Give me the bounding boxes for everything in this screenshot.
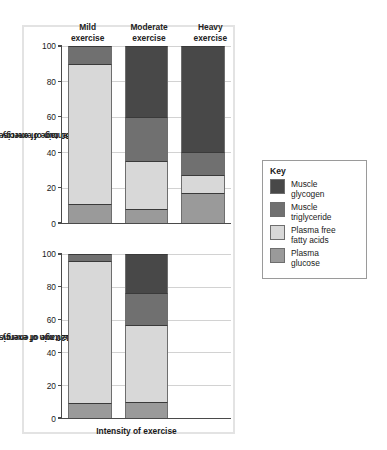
- chart-top-ytick-80: 80: [47, 77, 56, 87]
- legend-label-line2: fatty acids: [291, 235, 336, 245]
- legend-swatch-muscle_glycogen: [270, 179, 285, 194]
- chart-top-y-axis-title: Percentage of energy expenditure 0–30 mi…: [22, 46, 36, 224]
- chart-top-ytick-20: 20: [47, 183, 56, 193]
- legend-swatch-plasma_ffa: [270, 225, 285, 240]
- bar-segment[interactable]: [68, 204, 112, 223]
- legend-item-plasma_ffa: Plasma freefatty acids: [270, 225, 360, 245]
- bar-slot: [62, 254, 118, 418]
- bar-slot: [118, 46, 174, 223]
- chart-top-ytick-60: 60: [47, 112, 56, 122]
- column-header-moderate: Moderate exercise: [118, 22, 179, 48]
- bar-segment[interactable]: [125, 209, 169, 223]
- stacked-bar[interactable]: [181, 46, 225, 223]
- chart-top: Percentage of energy expenditure 0–30 mi…: [22, 46, 235, 224]
- stacked-bar[interactable]: [125, 254, 169, 418]
- chart-top-bars: [62, 46, 231, 223]
- legend-label-line2: glycogen: [291, 189, 325, 199]
- chart-bottom-ytick-60: 60: [47, 315, 56, 325]
- legend-label-line1: Plasma free: [291, 225, 336, 235]
- column-header-moderate-line1: Moderate: [118, 22, 179, 33]
- bar-segment[interactable]: [125, 325, 169, 402]
- chart-bottom-bars: [62, 254, 231, 418]
- bar-segment[interactable]: [125, 402, 169, 418]
- column-headers: Mild exercise Moderate exercise Heavy ex…: [57, 22, 241, 48]
- chart-bottom-ytick-100: 100: [42, 249, 56, 259]
- legend-title: Key: [270, 166, 360, 176]
- legend-label-line2: triglyceride: [291, 212, 332, 222]
- bar-segment[interactable]: [125, 254, 169, 293]
- bar-segment[interactable]: [68, 64, 112, 204]
- chart-top-ytick-100: 100: [42, 41, 56, 51]
- bar-segment[interactable]: [181, 175, 225, 193]
- stacked-bar[interactable]: [68, 46, 112, 223]
- legend-label-muscle_triglyceride: Muscletriglyceride: [291, 202, 332, 222]
- figure-root: Mild exercise Moderate exercise Heavy ex…: [0, 0, 387, 450]
- bar-segment[interactable]: [68, 261, 112, 404]
- bar-slot: [175, 254, 231, 418]
- bar-segment[interactable]: [125, 46, 169, 117]
- chart-bottom-ytick-20: 20: [47, 381, 56, 391]
- stacked-bar[interactable]: [125, 46, 169, 223]
- column-header-mild-line1: Mild: [57, 22, 118, 33]
- chart-bottom-ytick-0: 0: [51, 414, 56, 424]
- column-header-heavy: Heavy exercise: [180, 22, 241, 48]
- legend-item-muscle_triglyceride: Muscletriglyceride: [270, 202, 360, 222]
- chart-bottom-y-axis-title: Percentage of energy expenditure 90–120 …: [22, 254, 36, 419]
- legend-label-line1: Plasma: [291, 248, 320, 258]
- chart-bottom-ytick-40: 40: [47, 348, 56, 358]
- bar-slot: [118, 254, 174, 418]
- column-header-mild: Mild exercise: [57, 22, 118, 48]
- chart-bottom: Percentage of energy expenditure 90–120 …: [22, 254, 235, 419]
- legend-item-muscle_glycogen: Muscleglycogen: [270, 179, 360, 199]
- legend-swatch-muscle_triglyceride: [270, 202, 285, 217]
- column-header-heavy-line2: exercise: [180, 33, 241, 44]
- bar-segment[interactable]: [181, 46, 225, 152]
- chart-top-ytick-0: 0: [51, 219, 56, 229]
- chart-bottom-y-tick-labels: 020406080100: [38, 254, 59, 419]
- chart-bottom-plot-area: [61, 254, 231, 419]
- stacked-bar[interactable]: [68, 254, 112, 418]
- chart-top-plot-area: [61, 46, 231, 224]
- legend-label-muscle_glycogen: Muscleglycogen: [291, 179, 325, 199]
- bar-segment[interactable]: [68, 403, 112, 418]
- bar-segment[interactable]: [125, 117, 169, 161]
- legend-item-plasma_glucose: Plasmaglucose: [270, 248, 360, 268]
- bar-segment[interactable]: [125, 293, 169, 324]
- chart-top-ytick-40: 40: [47, 148, 56, 158]
- bar-slot: [62, 46, 118, 223]
- column-header-mild-line2: exercise: [57, 33, 118, 44]
- legend-label-plasma_ffa: Plasma freefatty acids: [291, 225, 336, 245]
- bar-segment[interactable]: [181, 152, 225, 175]
- legend-items: MuscleglycogenMuscletriglyceridePlasma f…: [270, 179, 360, 268]
- bar-segment[interactable]: [181, 193, 225, 223]
- bar-slot: [175, 46, 231, 223]
- chart-top-y-tick-labels: 020406080100: [38, 46, 59, 224]
- column-header-heavy-line1: Heavy: [180, 22, 241, 33]
- bar-segment[interactable]: [68, 46, 112, 64]
- column-header-moderate-line2: exercise: [118, 33, 179, 44]
- legend-swatch-plasma_glucose: [270, 248, 285, 263]
- legend-label-line1: Muscle: [291, 179, 325, 189]
- legend: Key MuscleglycogenMuscletriglyceridePlas…: [262, 160, 367, 279]
- chart-bottom-ytick-80: 80: [47, 282, 56, 292]
- bar-segment[interactable]: [125, 161, 169, 209]
- legend-label-plasma_glucose: Plasmaglucose: [291, 248, 320, 268]
- legend-label-line1: Muscle: [291, 202, 332, 212]
- legend-label-line2: glucose: [291, 258, 320, 268]
- x-axis-title: Intensity of exercise: [38, 426, 235, 436]
